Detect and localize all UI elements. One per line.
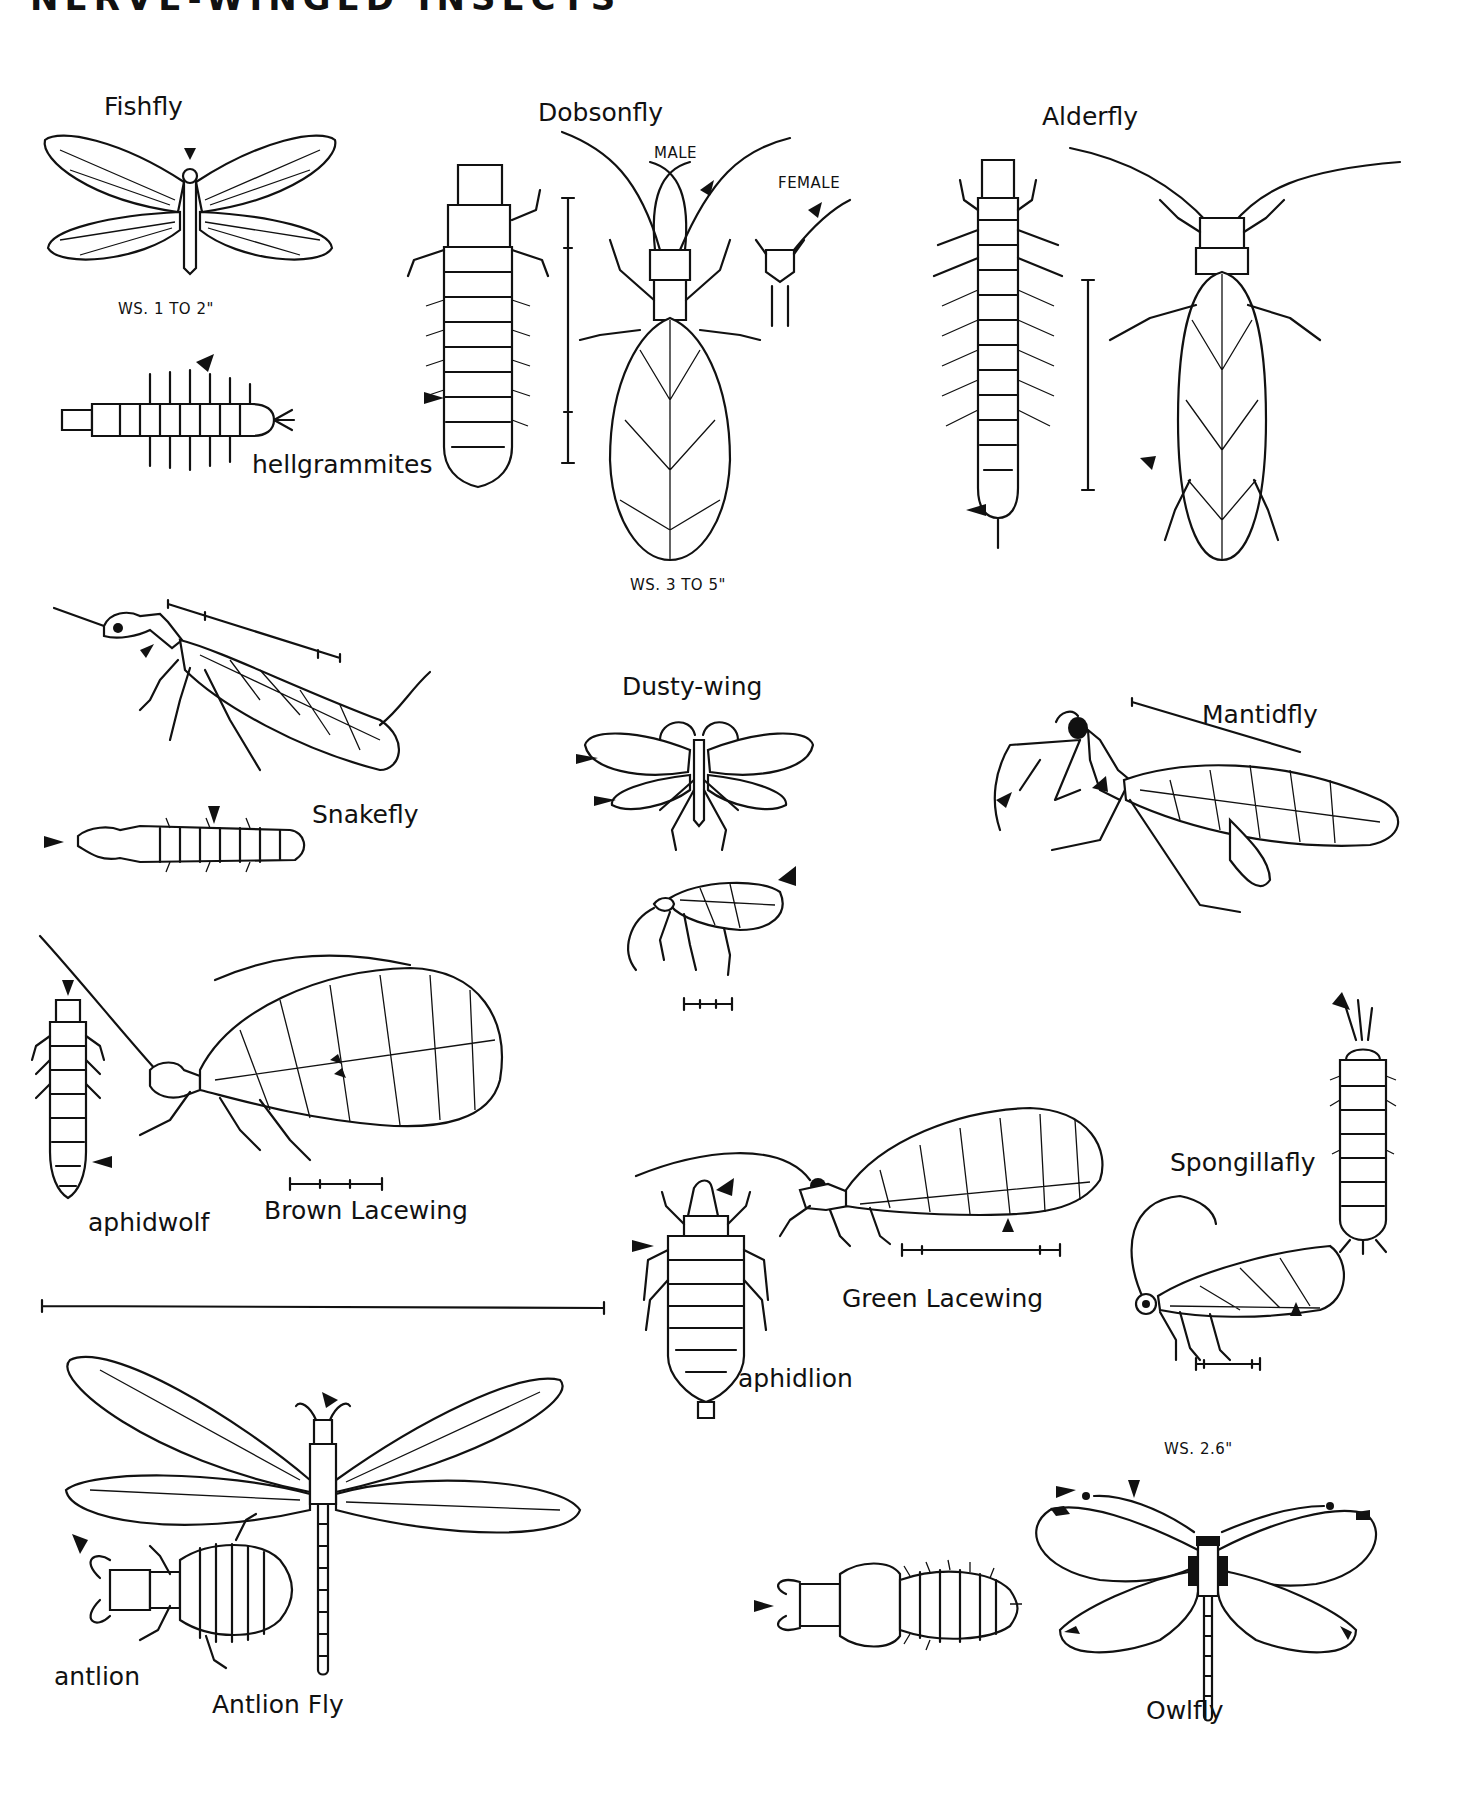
green-lacewing-scale-bar [902, 1244, 1060, 1256]
label-dobsonfly-male: MALE [654, 144, 697, 162]
owlfly-larva-drawing [754, 1560, 1022, 1650]
aphidwolf-drawing [32, 980, 112, 1198]
label-dobsonfly: Dobsonfly [538, 98, 663, 127]
brown-lacewing-drawing [40, 936, 502, 1160]
label-antlion-fly: Antlion Fly [212, 1690, 344, 1719]
dobsonfly-female-drawing [756, 200, 850, 326]
fishfly-drawing [45, 136, 336, 274]
label-hellgrammites: hellgrammites [252, 450, 432, 479]
brown-lacewing-scale-bar [290, 1178, 382, 1190]
antlion-larva-drawing [72, 1514, 292, 1668]
label-mantidfly: Mantidfly [1202, 700, 1318, 729]
label-fishfly-wingspan: WS. 1 TO 2" [118, 300, 214, 318]
dobsonfly-larva-drawing [408, 165, 548, 487]
alderfly-scale-bar [1082, 280, 1094, 490]
label-fishfly: Fishfly [104, 92, 183, 121]
spongillafly-scale-bar [1196, 1358, 1260, 1370]
mantidfly-drawing [995, 698, 1398, 912]
label-dobsonfly-female: FEMALE [778, 174, 840, 192]
label-owlfly-wingspan: WS. 2.6" [1164, 1440, 1233, 1458]
dusty-wing-dorsal-drawing [576, 722, 813, 850]
label-brown-lacewing: Brown Lacewing [264, 1196, 468, 1225]
label-snakefly: Snakefly [312, 800, 419, 829]
label-aphidwolf: aphidwolf [88, 1208, 209, 1237]
label-owlfly: Owlfly [1146, 1696, 1224, 1725]
illustration-plate: NERVE-WINGED INSECTS [0, 0, 1472, 1794]
owlfly-adult-drawing [1036, 1480, 1376, 1721]
dobsonfly-male-drawing [562, 132, 790, 560]
antlion-fly-drawing [66, 1357, 580, 1675]
dusty-wing-lateral-drawing [628, 866, 796, 975]
label-alderfly: Alderfly [1042, 102, 1138, 131]
label-dobsonfly-wingspan: WS. 3 TO 5" [630, 576, 726, 594]
alderfly-adult-drawing [1070, 148, 1400, 560]
label-aphidlion: aphidlion [738, 1364, 853, 1393]
alderfly-larva-drawing [934, 160, 1062, 548]
spongillafly-larva-drawing [1330, 992, 1396, 1254]
label-green-lacewing: Green Lacewing [842, 1284, 1043, 1313]
snakefly-larva-drawing [44, 806, 304, 872]
label-dusty-wing: Dusty-wing [622, 672, 762, 701]
spongillafly-adult-drawing [1132, 1196, 1344, 1360]
dusty-wing-scale-bar [684, 998, 732, 1010]
label-antlion: antlion [54, 1662, 140, 1691]
insect-drawings [0, 0, 1472, 1794]
dobsonfly-scale-bar [562, 198, 574, 463]
snakefly-adult-drawing [54, 600, 430, 770]
antlion-fly-scale-bar [42, 1300, 604, 1314]
label-spongillafly: Spongillafly [1170, 1148, 1315, 1177]
